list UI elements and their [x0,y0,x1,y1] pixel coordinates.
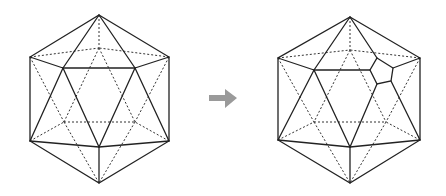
right-truncated-icosahedron [278,17,420,183]
left-icosahedron [30,15,169,183]
diagram-canvas: Icosahedron wireframe transformed by tru… [0,0,446,196]
right-visible-edges [278,17,420,183]
arrow-right-icon [209,89,237,108]
icosahedron-transform-diagram [0,0,446,196]
truncation-pentagon [370,58,393,84]
